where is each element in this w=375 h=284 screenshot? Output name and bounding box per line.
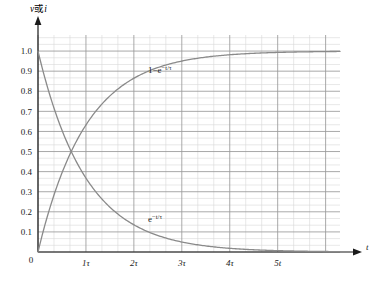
y-axis-arrowhead xyxy=(35,16,42,25)
grid-major-lines xyxy=(38,35,340,252)
x-tick-label: 4τ xyxy=(226,258,235,268)
y-tick-label: 1.0 xyxy=(21,46,33,56)
y-tick-label: 0.4 xyxy=(21,167,33,177)
origin-label: 0 xyxy=(29,255,34,265)
curve-label-rising: 1−e−t/τ xyxy=(148,64,172,75)
curve-label-decaying-exponent: −t/τ xyxy=(152,213,162,220)
y-tick-label: 0.3 xyxy=(21,187,33,197)
exponential-charge-discharge-chart: 0.10.20.30.40.50.60.70.80.91.0 1τ2τ3τ4τ5… xyxy=(0,0,375,284)
curve-label-rising-base: 1−e xyxy=(148,65,162,75)
y-tick-label: 0.8 xyxy=(21,86,33,96)
x-axis-arrowhead xyxy=(353,249,362,256)
y-axis-name-label: v或i xyxy=(30,3,47,14)
x-tick-label: 3τ xyxy=(177,258,187,268)
y-tick-label: 0.6 xyxy=(21,127,33,137)
x-tick-label: 5t xyxy=(274,258,282,268)
y-tick-label: 0.2 xyxy=(21,207,32,217)
y-tick-label: 0.9 xyxy=(21,66,33,76)
y-axis-i-symbol: i xyxy=(44,4,47,14)
curve-label-rising-exponent: −t/τ xyxy=(162,64,172,71)
y-tick-label: 0.7 xyxy=(21,107,33,117)
x-tick-label: 2τ xyxy=(130,258,139,268)
y-tick-label: 0.1 xyxy=(21,227,32,237)
y-axis-tick-labels: 0.10.20.30.40.50.60.70.80.91.0 xyxy=(21,46,33,237)
x-tick-label: 1τ xyxy=(82,258,91,268)
y-tick-label: 0.5 xyxy=(21,147,33,157)
grid-minor-lines xyxy=(38,35,340,252)
x-axis-tick-labels: 1τ2τ3τ4τ5t xyxy=(82,258,282,268)
curve-label-decaying: e−t/τ xyxy=(148,213,162,224)
x-axis-name-label: t xyxy=(366,242,369,252)
y-axis-or-char: 或 xyxy=(34,3,44,14)
figure-container: 0.10.20.30.40.50.60.70.80.91.0 1τ2τ3τ4τ5… xyxy=(0,0,375,284)
